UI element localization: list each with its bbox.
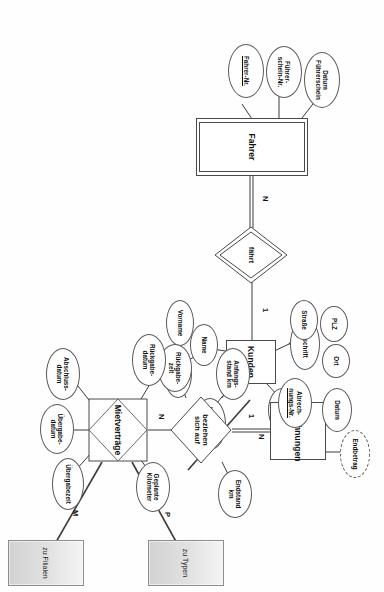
cardinality-kunden-mietvertraege: N <box>257 434 266 439</box>
attr-line-2: Kilometer <box>146 472 153 501</box>
attr-line-2: nungs-Nr. <box>289 388 296 417</box>
attribute-abrechnungs-nr[interactable]: Abrech- nungs-Nr. <box>278 378 312 428</box>
attr-line-1: Datum <box>322 70 329 90</box>
cardinality-kunden-faehrt: 1 <box>261 308 270 312</box>
attr-line-2: datum <box>50 420 57 439</box>
diagram-stage: Fahrer Fahrer-Nr. Führer- schein-Nr. Dat… <box>0 0 384 592</box>
attribute-plz[interactable]: PLZ <box>320 306 348 342</box>
attr-line-2: stand km <box>226 360 233 388</box>
cardinality-zu-typen: P <box>163 512 172 517</box>
cardinality-abrechnungen: 1 <box>247 414 256 418</box>
attr-line-2: zeit <box>168 363 175 374</box>
entity-fahrer-inner: Fahrer <box>199 122 305 172</box>
attr-line-2: datum <box>56 365 63 384</box>
attribute-endstand-km[interactable]: Endstand km <box>218 470 252 518</box>
attr-line-1: Endstand <box>235 480 242 509</box>
offpage-ref-zu-typen-label: zu Typen <box>183 549 190 577</box>
attribute-uebergabezeit[interactable]: Übergabezeit <box>52 458 84 510</box>
relationship-beziehen-sich-auf[interactable]: beziehen sich auf <box>170 396 232 464</box>
attr-line-1: Geplante <box>153 474 160 501</box>
attribute-vorname[interactable]: Vorname <box>166 300 194 346</box>
entity-mietvertraege[interactable]: Mietverträge <box>88 398 148 462</box>
attribute-geplante-kilometer[interactable]: Geplante Kilometer <box>136 462 170 512</box>
er-diagram-canvas: Fahrer Fahrer-Nr. Führer- schein-Nr. Dat… <box>0 0 384 592</box>
attr-line-1: Rückgabe- <box>175 352 182 384</box>
cardinality-zu-filialen: M <box>71 510 80 516</box>
relationship-faehrt[interactable]: fährt <box>214 226 288 284</box>
attr-line-2: schein-Nr. <box>277 57 284 87</box>
attr-line-1: Rückgabe- <box>149 344 156 376</box>
attribute-fuehrerschein-nr[interactable]: Führer- schein-Nr. <box>266 46 302 98</box>
attribute-datum[interactable]: Datum <box>322 388 352 432</box>
cardinality-fahrer-faehrt: N <box>261 196 270 201</box>
attribute-ort[interactable]: Ort <box>322 344 350 378</box>
attribute-anfangsstand-km[interactable]: Anfangs- stand km <box>216 348 250 400</box>
cardinality-mietvertraege-beziehen: N <box>157 414 166 419</box>
attribute-fahrer-nr[interactable]: Fahrer-Nr. <box>228 44 264 98</box>
attr-line-1: Abrech- <box>296 391 303 415</box>
offpage-ref-zu-filialen-label: zu Filialen <box>43 547 50 579</box>
attr-line-2: datum <box>142 351 149 370</box>
attribute-uebergabedatum[interactable]: Übergabe- datum <box>40 404 74 454</box>
attr-line-1: Abschluss- <box>63 357 70 391</box>
attribute-endbetrag[interactable]: Endbetrag <box>340 430 370 478</box>
attr-line-2: km <box>228 489 235 498</box>
attr-line-2: Führerschein <box>315 60 322 100</box>
attribute-abschlussdatum[interactable]: Abschluss- datum <box>46 348 80 400</box>
entity-fahrer-label: Fahrer <box>247 133 257 160</box>
offpage-ref-zu-typen[interactable]: zu Typen <box>148 540 224 586</box>
attribute-strasse[interactable]: Straße <box>290 300 318 340</box>
attr-line-1: Übergabe- <box>57 413 64 444</box>
attr-line-1: Führer- <box>284 61 291 83</box>
entity-fahrer[interactable]: Fahrer <box>196 118 308 176</box>
attribute-rueckgabedatum[interactable]: Rückgabe- datum <box>132 334 166 386</box>
attribute-datum-fuehrerschein[interactable]: Datum Führerschein <box>304 52 340 108</box>
offpage-ref-zu-filialen[interactable]: zu Filialen <box>8 540 84 586</box>
attr-line-1: Anfangs- <box>233 360 240 387</box>
attribute-name[interactable]: Name <box>190 324 218 366</box>
